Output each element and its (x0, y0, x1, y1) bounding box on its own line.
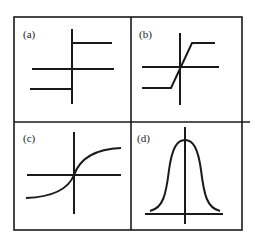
panel-d-label: (d) (137, 132, 150, 145)
panel-d: (d) (137, 127, 223, 224)
panel-c: (c) (23, 132, 121, 214)
panel-a-label: (a) (23, 28, 36, 41)
panel-a: (a) (23, 28, 114, 104)
diagram-canvas: (a) (b) (c) (d) (0, 0, 255, 241)
panel-b: (b) (139, 28, 219, 105)
panel-b-ramp-curve (142, 43, 215, 88)
panel-c-label: (c) (23, 132, 36, 145)
panel-b-label: (b) (139, 28, 152, 41)
outer-frame (14, 17, 242, 230)
